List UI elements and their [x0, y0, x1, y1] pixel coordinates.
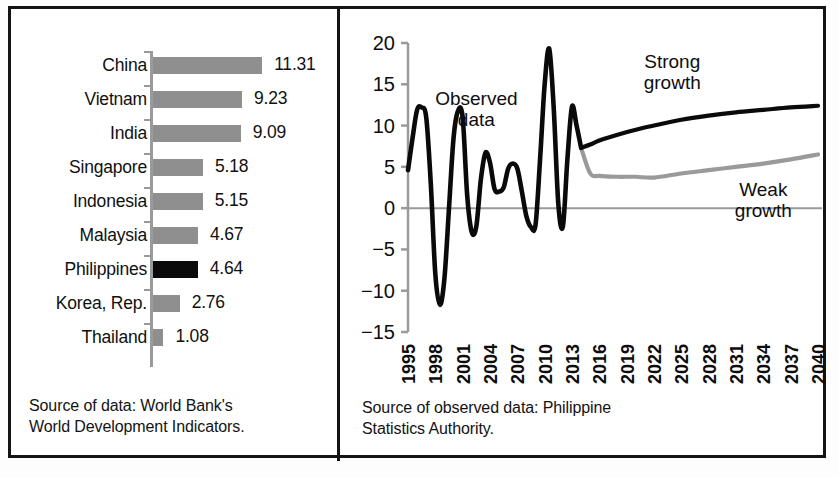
x-axis-tick-label: 1998 — [426, 344, 446, 384]
weak-growth-annotation: Weak — [739, 179, 788, 200]
right-panel-caption: Source of observed data: Philippine Stat… — [362, 397, 782, 439]
bar-axis-tick — [144, 153, 151, 155]
left-panel-caption: Source of data: World Bank's World Devel… — [29, 395, 329, 437]
bar-value-label: 4.67 — [210, 224, 243, 245]
bar-rect — [153, 193, 203, 210]
bar-rect — [153, 125, 241, 142]
bar-axis-tick — [144, 187, 151, 189]
bar-category-label: Indonesia — [0, 191, 147, 212]
bar-value-label: 2.76 — [192, 292, 225, 313]
observed-data-line — [408, 48, 581, 305]
bar-rect — [153, 159, 203, 176]
observed-data-annotation: data — [458, 109, 495, 130]
left-caption-line-1: Source of data: World Bank's — [29, 395, 329, 416]
bar-chart-row: Singapore5.18 — [11, 151, 337, 185]
strong-growth-line — [581, 106, 818, 148]
bar-value-label: 4.64 — [210, 258, 243, 279]
right-caption-line-2: Statistics Authority. — [362, 418, 782, 439]
left-panel-bar-chart: China11.31Vietnam9.23India9.09Singapore5… — [11, 9, 337, 455]
x-axis-tick-label: 2019 — [618, 344, 638, 384]
bar-rect — [153, 91, 242, 108]
bar-axis-tick — [144, 255, 151, 257]
figure-root: China11.31Vietnam9.23India9.09Singapore5… — [0, 0, 839, 477]
bar-axis-tick — [144, 85, 151, 87]
bar-rect — [153, 329, 163, 346]
weak-growth-line — [581, 148, 818, 178]
bar-category-label: Vietnam — [0, 89, 147, 110]
bar-axis-tick — [144, 289, 151, 291]
bar-chart-row: Philippines4.64 — [11, 253, 337, 287]
x-axis-tick-label: 2004 — [481, 344, 501, 384]
bar-value-label: 9.09 — [253, 122, 286, 143]
bar-value-label: 5.15 — [215, 190, 248, 211]
observed-data-annotation: Observed — [435, 88, 517, 109]
x-axis-tick-label: 2001 — [454, 344, 474, 384]
y-axis-tick-label: 5 — [384, 156, 395, 178]
y-axis-tick-label: 0 — [384, 197, 395, 219]
x-axis-tick-label: 2007 — [508, 344, 528, 384]
bar-category-label: Thailand — [0, 327, 147, 348]
bar-value-label: 5.18 — [215, 156, 248, 177]
line-chart-plot-area: 20151050−5−10−15199519982001200420072010… — [340, 9, 826, 389]
bar-axis-tick — [144, 119, 151, 121]
strong-growth-annotation: Strong — [644, 51, 700, 72]
x-axis-tick-label: 2037 — [782, 344, 802, 384]
x-axis-tick-label: 2013 — [563, 344, 583, 384]
x-axis-tick-label: 2022 — [645, 344, 665, 384]
bar-value-label: 11.31 — [274, 54, 316, 75]
weak-growth-annotation: growth — [735, 200, 792, 221]
x-axis-tick-label: 2025 — [672, 344, 692, 384]
bar-category-label: Korea, Rep. — [0, 293, 147, 314]
bar-chart-row: Vietnam9.23 — [11, 83, 337, 117]
bar-chart-row: Korea, Rep.2.76 — [11, 287, 337, 321]
right-panel-line-chart: 20151050−5−10−15199519982001200420072010… — [340, 9, 826, 455]
bar-category-label: Philippines — [0, 259, 147, 280]
bar-rect — [153, 227, 198, 244]
y-axis-tick-label: 20 — [373, 32, 395, 54]
bar-rect — [153, 295, 180, 312]
right-caption-line-1: Source of observed data: Philippine — [362, 397, 782, 418]
bar-axis-tick — [144, 221, 151, 223]
bar-axis-tick — [144, 323, 151, 325]
x-axis-tick-label: 1995 — [399, 344, 419, 384]
x-axis-tick-label: 2034 — [754, 344, 774, 384]
x-axis-tick-label: 2031 — [727, 344, 747, 384]
bar-chart-row: Thailand1.08 — [11, 321, 337, 355]
x-axis-tick-label: 2028 — [700, 344, 720, 384]
bar-rect — [153, 261, 198, 278]
bar-chart-row: India9.09 — [11, 117, 337, 151]
bar-chart-row: Indonesia5.15 — [11, 185, 337, 219]
bar-axis-tick — [144, 51, 151, 53]
y-axis-tick-label: 15 — [373, 73, 395, 95]
bar-value-label: 9.23 — [254, 88, 287, 109]
strong-growth-annotation: growth — [644, 72, 701, 93]
y-axis-tick-label: −15 — [361, 321, 395, 343]
x-axis-tick-label: 2010 — [536, 344, 556, 384]
y-axis-tick-label: −5 — [372, 238, 395, 260]
bar-value-label: 1.08 — [175, 326, 208, 347]
bar-rect — [153, 57, 262, 74]
bar-category-label: Singapore — [0, 157, 147, 178]
bar-chart-plot-area: China11.31Vietnam9.23India9.09Singapore5… — [11, 43, 337, 373]
bar-category-label: India — [0, 123, 147, 144]
x-axis-tick-label: 2040 — [809, 344, 826, 384]
bar-category-label: China — [0, 55, 147, 76]
bar-category-label: Malaysia — [0, 225, 147, 246]
y-axis-tick-label: −10 — [361, 280, 395, 302]
y-axis-tick-label: 10 — [373, 115, 395, 137]
left-caption-line-2: World Development Indicators. — [29, 416, 329, 437]
bar-chart-row: China11.31 — [11, 49, 337, 83]
x-axis-tick-label: 2016 — [590, 344, 610, 384]
bar-chart-row: Malaysia4.67 — [11, 219, 337, 253]
